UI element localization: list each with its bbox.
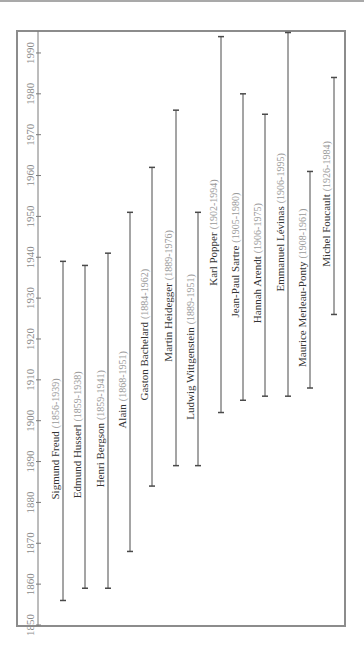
philosopher-name: Henri Bergson: [94, 423, 106, 488]
philosopher-dates: (1859-1938): [72, 372, 84, 422]
philosopher-dates: (1889-1951): [185, 274, 197, 324]
philosopher-dates: (1856-1939): [50, 378, 62, 428]
philosopher-name: Edmund Husserl: [71, 425, 83, 499]
philosopher-label: Edmund Husserl(1859-1938): [71, 372, 84, 499]
philosopher-lifespan: Jean-Paul Sartre(1905-1980): [229, 94, 246, 400]
axis-tick-label: 1920: [24, 327, 36, 350]
lifespan-bars: Sigmund Freud(1856-1939)Edmund Husserl(1…: [49, 33, 337, 601]
philosopher-lifespan: Michel Foucault(1926-1984): [320, 77, 337, 314]
philosopher-name: Gaston Bachelard: [138, 321, 150, 400]
axis-tick-label: 1970: [24, 123, 36, 146]
philosopher-label: Ludwig Wittgenstein(1889-1951): [184, 274, 197, 420]
philosopher-name: Alain: [116, 404, 128, 429]
philosopher-lifespan: Alain(1868-1951): [116, 212, 133, 551]
philosopher-lifespan: Gaston Bachelard(1884-1962): [138, 167, 155, 486]
philosophers-timeline-chart: 1850186018701880189019001910192019301940…: [0, 0, 364, 664]
philosopher-lifespan: Edmund Husserl(1859-1938): [71, 265, 88, 588]
philosopher-dates: (1859-1941): [95, 370, 107, 420]
philosopher-dates: (1889-1976): [163, 230, 175, 280]
philosopher-label: Martin Heidegger(1889-1976): [162, 230, 175, 362]
axis-tick-label: 1960: [24, 164, 36, 187]
axis-tick-label: 1910: [24, 368, 36, 391]
philosopher-name: Hannah Arendt: [251, 256, 263, 323]
philosopher-dates: (1926-1984): [321, 141, 333, 191]
axis-tick-label: 1930: [24, 287, 36, 310]
philosopher-label: Henri Bergson(1859-1941): [94, 370, 107, 487]
philosopher-name: Sigmund Freud: [49, 431, 61, 500]
axis-tick-label: 1980: [24, 82, 36, 105]
philosopher-name: Karl Popper: [207, 232, 219, 286]
axis-tick-label: 1890: [24, 450, 36, 473]
philosopher-dates: (1868-1951): [117, 351, 129, 401]
philosopher-name: Michel Foucault: [320, 194, 332, 266]
axis-tick-label: 1900: [24, 409, 36, 432]
axis-tick-label: 1880: [24, 491, 36, 514]
philosopher-label: Gaston Bachelard(1884-1962): [138, 269, 151, 401]
philosopher-label: Hannah Arendt(1906-1975): [251, 203, 264, 323]
philosopher-name: Emmanuel Lévinas: [274, 206, 286, 291]
philosopher-name: Ludwig Wittgenstein: [184, 327, 196, 420]
philosopher-name: Maurice Merleau-Ponty: [296, 261, 308, 367]
axis-tick-label: 1850: [24, 614, 36, 637]
axis-tick-label: 1860: [24, 573, 36, 596]
philosopher-name: Jean-Paul Sartre: [229, 246, 241, 318]
philosopher-lifespan: Martin Heidegger(1889-1976): [162, 110, 179, 465]
philosopher-label: Jean-Paul Sartre(1905-1980): [229, 193, 242, 318]
philosopher-dates: (1906-1975): [252, 203, 264, 253]
philosopher-label: Michel Foucault(1926-1984): [320, 141, 333, 266]
philosopher-label: Maurice Merleau-Ponty(1908-1961): [296, 209, 309, 367]
philosopher-label: Karl Popper(1902-1994): [207, 179, 220, 285]
philosopher-lifespan: Karl Popper(1902-1994): [207, 37, 224, 413]
philosopher-label: Emmanuel Lévinas(1906-1995): [274, 153, 287, 291]
philosopher-dates: (1884-1962): [139, 269, 151, 319]
philosopher-dates: (1905-1980): [230, 193, 242, 243]
axis-tick-label: 1940: [24, 246, 36, 269]
philosopher-dates: (1908-1961): [297, 209, 309, 259]
axis-tick-label: 1950: [24, 205, 36, 228]
axis-tick-label: 1870: [24, 532, 36, 555]
axis-tick-label: 1990: [24, 41, 36, 64]
philosopher-label: Sigmund Freud(1856-1939): [49, 378, 62, 499]
philosopher-lifespan: Emmanuel Lévinas(1906-1995): [274, 33, 291, 397]
philosopher-name: Martin Heidegger: [162, 283, 174, 362]
philosopher-dates: (1906-1995): [275, 153, 287, 203]
philosopher-lifespan: Henri Bergson(1859-1941): [94, 253, 111, 588]
philosopher-lifespan: Sigmund Freud(1856-1939): [49, 261, 66, 600]
philosopher-lifespan: Ludwig Wittgenstein(1889-1951): [184, 212, 201, 465]
philosopher-label: Alain(1868-1951): [116, 351, 129, 428]
philosopher-dates: (1902-1994): [208, 179, 220, 229]
philosopher-lifespan: Maurice Merleau-Ponty(1908-1961): [296, 171, 313, 388]
philosopher-lifespan: Hannah Arendt(1906-1975): [251, 114, 268, 396]
